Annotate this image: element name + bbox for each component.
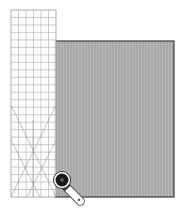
quilting-ruler bbox=[11, 10, 56, 197]
quilting-illustration bbox=[0, 0, 181, 224]
fabric bbox=[55, 41, 174, 197]
